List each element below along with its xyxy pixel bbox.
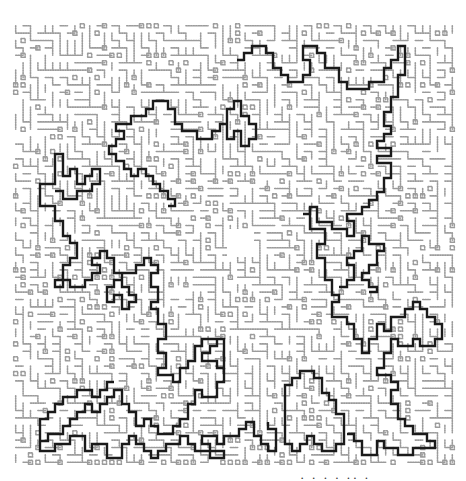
center-hole (227, 229, 254, 257)
loop-model-figure (0, 0, 466, 481)
caption-fragment: · · · · ·· · (300, 470, 466, 481)
